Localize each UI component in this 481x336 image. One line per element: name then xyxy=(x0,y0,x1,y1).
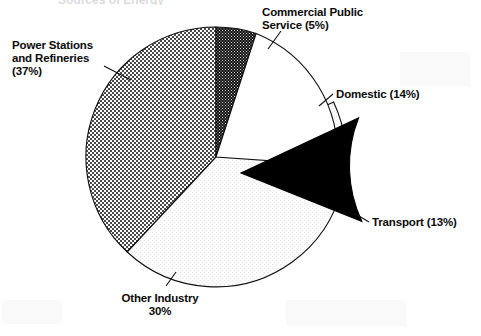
slice-label-commercial-public-service: Commercial Public Service (5%) xyxy=(262,6,402,32)
slice-label-other-industry: Other Industry 30% xyxy=(98,292,222,318)
slice-label-transport: Transport (13%) xyxy=(372,216,481,229)
slice-label-domestic: Domestic (14%) xyxy=(336,88,466,101)
pie-chart-figure: Sources of Energy xyxy=(0,0,481,336)
slice-label-power-stations: Power Stations and Refineries (37%) xyxy=(12,39,132,79)
